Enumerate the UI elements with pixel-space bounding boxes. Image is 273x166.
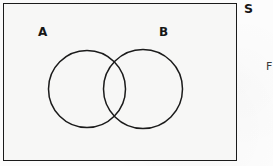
set-a-label: A [38, 26, 47, 38]
universal-set-label: S [244, 3, 253, 16]
venn-diagram-figure: A B S F [0, 0, 273, 166]
cropped-edge-text: F [266, 61, 273, 72]
set-b-label: B [159, 26, 168, 38]
